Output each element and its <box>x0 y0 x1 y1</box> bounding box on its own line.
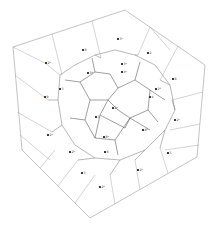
cell-edge <box>170 85 175 110</box>
inner-edge <box>85 120 95 138</box>
seed-label: 3¹ <box>120 37 124 41</box>
seed-label: 8 <box>175 77 177 81</box>
inner-edge <box>108 88 118 100</box>
seed-label: 2ᵇ <box>72 150 76 154</box>
cube-edge <box>13 47 22 150</box>
cube-edge <box>90 157 197 218</box>
cell-edge <box>58 75 60 100</box>
voronoi-cube-wireframe: 3¹822⁹3ᵃ3⁴4ᵇ82⁴392³432⁶8⁹2⁵8ᵃ2ᵇ8532⁵2⁵ <box>0 0 213 232</box>
cell-edge <box>115 50 135 55</box>
inner-edge <box>92 58 95 72</box>
inner-edge <box>130 110 148 118</box>
grid-edge <box>40 150 55 168</box>
grid-edge <box>17 112 52 132</box>
inner-edge <box>100 100 108 115</box>
inner-edge <box>115 140 118 155</box>
cell-edge <box>52 125 62 132</box>
grid-edge <box>150 27 170 50</box>
inner-edge <box>148 90 150 110</box>
inner-edge <box>118 80 135 88</box>
seed-label: 2⁴ <box>158 87 162 91</box>
cube-face-grid <box>13 21 203 204</box>
seed-label: 3 <box>84 171 86 175</box>
seed-label: 3 <box>62 87 64 91</box>
seed-label: 2⁵ <box>140 168 144 172</box>
voronoi-cell-edges <box>48 50 175 175</box>
seed-label: 8 <box>85 48 87 52</box>
seed-label: 8 <box>107 150 109 154</box>
inner-edge <box>85 100 90 120</box>
cell-edge <box>165 110 175 130</box>
seed-label: 2⁶ <box>177 118 181 122</box>
grid-edge <box>15 75 48 100</box>
grid-edge <box>75 175 95 203</box>
cell-edge <box>120 150 145 160</box>
cube-edge <box>197 65 205 157</box>
inner-edge <box>65 80 80 82</box>
seed-label: 5 <box>170 151 172 155</box>
grid-edge <box>52 34 62 75</box>
cell-edge <box>58 100 62 125</box>
cell-edge <box>135 55 155 65</box>
inner-edge <box>135 62 140 80</box>
seed-label: 2⁹ <box>48 61 52 65</box>
inner-edge <box>125 118 130 128</box>
inner-edge <box>110 74 118 88</box>
seed-label: 3⁴ <box>90 71 94 75</box>
grid-edge <box>135 160 140 190</box>
cell-edge <box>60 65 75 75</box>
inner-edge <box>135 80 150 90</box>
inner-edge <box>80 82 90 100</box>
cell-edge <box>62 125 75 145</box>
cell-edge <box>135 150 145 160</box>
inner-edge <box>70 118 85 120</box>
seed-points: 3¹822⁹3ᵃ3⁴4ᵇ82⁴392³432⁶8⁹2⁵8ᵃ2ᵇ8532⁵2⁵ <box>44 37 181 189</box>
grid-edge <box>160 148 168 173</box>
cube-outline <box>13 10 205 218</box>
inner-edge <box>118 110 130 118</box>
seed-label: 3 <box>98 115 100 119</box>
grid-edge <box>165 145 199 150</box>
grid-edge <box>20 135 50 160</box>
grid-edge <box>92 21 101 58</box>
grid-edge <box>110 175 115 204</box>
seed-label: 4ᵇ <box>124 70 128 74</box>
seed-label: 9 <box>47 95 49 99</box>
seed-label: 2 <box>150 51 152 55</box>
cube-edge <box>13 10 125 47</box>
seed-label: 2³ <box>115 106 119 110</box>
seed-label: 3ᵃ <box>124 62 128 66</box>
inner-edge <box>95 72 110 74</box>
grid-edge <box>172 92 203 100</box>
inner-edge <box>148 110 158 122</box>
inner-edge <box>115 118 130 140</box>
grid-edge <box>13 47 45 63</box>
cell-edge <box>155 65 170 85</box>
seed-label: 4 <box>152 95 154 99</box>
grid-edge <box>170 124 200 130</box>
cell-edge <box>160 80 170 85</box>
seed-label: 2⁵ <box>102 185 106 189</box>
seed-label: 8ᵃ <box>106 135 110 139</box>
cell-edge <box>75 55 95 65</box>
grid-edge <box>138 27 150 55</box>
cube-edge <box>125 10 205 65</box>
cell-edge <box>95 50 115 55</box>
cell-edge <box>95 158 120 160</box>
seed-label: 2⁵ <box>50 133 54 137</box>
cell-edge <box>78 158 95 160</box>
cell-edge <box>110 160 120 175</box>
inner-edge <box>100 115 125 128</box>
cube-edge <box>22 150 90 218</box>
cell-edge <box>75 145 95 158</box>
cell-edge <box>95 55 101 58</box>
voronoi-cube-figure: 3¹822⁹3ᵃ3⁴4ᵇ82⁴392³432⁶8⁹2⁵8ᵃ2ᵇ8532⁵2⁵ <box>0 0 213 232</box>
grid-edge <box>58 160 78 186</box>
